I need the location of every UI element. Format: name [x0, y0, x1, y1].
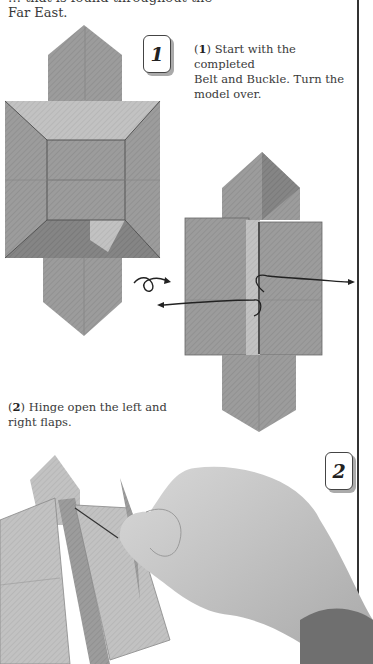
turn-over-icon	[134, 277, 171, 291]
step-1-badge: 1	[143, 35, 171, 73]
step-1-number: 1	[150, 43, 163, 65]
step-1-caption-line-1: (1) Start with the completed	[194, 42, 354, 72]
step-2-badge: 2	[325, 452, 353, 490]
step-1-caption: (1) Start with the completed Belt and Bu…	[194, 42, 354, 102]
model-step1-front	[5, 25, 160, 336]
step-2-caption: (2) Hinge open the left and right flaps.	[8, 400, 168, 430]
step-1-caption-line-3: model over.	[194, 87, 354, 102]
step-2-caption-line-1: (2) Hinge open the left and	[8, 400, 168, 415]
model-step1-back	[185, 152, 322, 432]
step-2-number: 2	[332, 460, 345, 482]
step-1-caption-line-2: Belt and Buckle. Turn the	[194, 72, 354, 87]
step-2-caption-line-2: right flaps.	[8, 415, 168, 430]
